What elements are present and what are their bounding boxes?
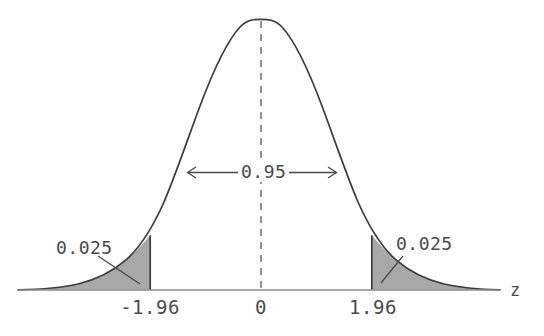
tick-label-positive-critical: 1.96 [340, 296, 406, 318]
axis-label-z: z [510, 280, 520, 300]
confidence-level-label: 0.95 [238, 161, 289, 182]
right-tail-area-label: 0.025 [396, 233, 453, 254]
tick-label-negative-critical: -1.96 [108, 296, 192, 318]
normal-distribution-figure: 0.025 0.025 0.95 -1.96 0 1.96 z [0, 0, 544, 336]
tick-label-zero: 0 [239, 296, 283, 318]
left-tail-area-label: 0.025 [56, 237, 113, 258]
